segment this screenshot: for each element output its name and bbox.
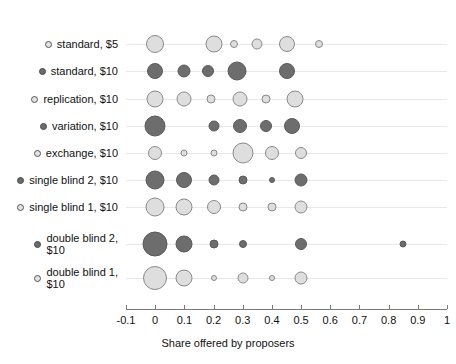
gridline (126, 153, 447, 154)
data-bubble (295, 201, 308, 214)
data-bubble (176, 236, 193, 253)
data-bubble (279, 63, 295, 79)
data-bubble (176, 199, 193, 216)
data-bubble (265, 146, 279, 160)
x-axis-tick-label: 1 (444, 314, 450, 326)
gridline (126, 278, 447, 279)
x-axis-tick (330, 305, 331, 309)
x-axis-tick-label: 0.3 (235, 314, 250, 326)
data-bubble (227, 62, 246, 81)
data-bubble (181, 150, 188, 157)
data-bubble (232, 143, 253, 164)
data-bubble (206, 95, 215, 104)
x-axis-tick-label: 0.9 (410, 314, 425, 326)
data-bubble (147, 91, 164, 108)
data-bubble (287, 91, 304, 108)
data-bubble (209, 240, 218, 249)
data-bubble (237, 273, 248, 284)
data-bubble (147, 63, 163, 79)
data-bubble (205, 36, 222, 53)
data-bubble (146, 35, 164, 53)
data-bubble (233, 119, 247, 133)
data-bubble (207, 200, 221, 214)
data-bubble (295, 238, 307, 250)
data-bubble (210, 150, 217, 157)
data-bubble (295, 272, 308, 285)
data-bubble (238, 203, 247, 212)
data-bubble (239, 240, 247, 248)
data-bubble (145, 116, 166, 137)
data-bubble (295, 174, 308, 187)
data-bubble (267, 203, 276, 212)
data-bubble (208, 121, 219, 132)
data-bubble (176, 270, 193, 287)
data-bubble (178, 65, 191, 78)
data-bubble (262, 95, 271, 104)
data-bubble (208, 175, 219, 186)
x-axis-tick (389, 305, 390, 309)
x-axis-tick-label: 0.5 (293, 314, 308, 326)
data-bubble (177, 92, 192, 107)
data-bubble (260, 120, 272, 132)
data-bubble (269, 177, 275, 183)
data-bubble (230, 40, 238, 48)
data-bubble (400, 241, 407, 248)
bubble-chart: standard, $5standard, $10replication, $1… (0, 0, 456, 364)
x-axis-tick (243, 305, 244, 309)
gridline (126, 180, 447, 181)
data-bubble (315, 40, 323, 48)
data-bubble (252, 39, 263, 50)
data-bubble (295, 147, 307, 159)
data-bubble (269, 275, 275, 281)
x-axis-tick (447, 305, 448, 309)
x-axis-tick-label: 0.1 (177, 314, 192, 326)
x-axis-tick-label: 0.8 (381, 314, 396, 326)
data-bubble (232, 92, 247, 107)
data-bubble (284, 118, 300, 134)
data-bubble (176, 172, 192, 188)
x-axis-tick (155, 305, 156, 309)
x-axis-tick (272, 305, 273, 309)
x-axis-tick-label: 0.2 (206, 314, 221, 326)
x-axis-tick-label: 0 (152, 314, 158, 326)
x-axis-tick-label: -0.1 (117, 314, 136, 326)
x-axis-tick (301, 305, 302, 309)
x-axis-title: Share offered by proposers (0, 337, 456, 349)
x-axis-tick (126, 305, 127, 309)
data-bubble (238, 176, 247, 185)
gridline (126, 207, 447, 208)
data-bubble (146, 198, 165, 217)
x-axis-tick (359, 305, 360, 309)
x-axis-tick (184, 305, 185, 309)
x-axis-tick-label: 0.6 (323, 314, 338, 326)
x-axis-line (126, 309, 447, 310)
data-bubble (211, 275, 217, 281)
x-axis-tick (214, 305, 215, 309)
data-bubble (146, 171, 165, 190)
x-axis-tick-label: 0.4 (264, 314, 279, 326)
x-axis-tick (418, 305, 419, 309)
data-bubble (279, 36, 295, 52)
data-bubble (143, 232, 168, 257)
data-bubble (202, 65, 214, 77)
data-bubble (143, 266, 167, 290)
data-bubble (148, 146, 162, 160)
x-axis-tick-label: 0.7 (352, 314, 367, 326)
